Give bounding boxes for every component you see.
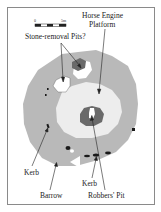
label-kerb-left: Kerb — [24, 168, 39, 177]
scale-start-label: 0 — [34, 18, 36, 23]
site-plan-diagram: 0 5m Horse Engine Platform Stone-removal… — [0, 0, 161, 212]
label-barrow: Barrow — [40, 191, 63, 200]
label-horse-engine: Horse Engine — [82, 11, 124, 20]
label-stone-removal-pits: Stone-removal Pits? — [25, 32, 86, 41]
label-robbers-pit: Robbers' Pit — [88, 191, 125, 200]
label-platform: Platform — [89, 20, 115, 29]
label-kerb-bottom: Kerb — [82, 179, 97, 188]
scale-end-label: 5m — [61, 18, 67, 23]
